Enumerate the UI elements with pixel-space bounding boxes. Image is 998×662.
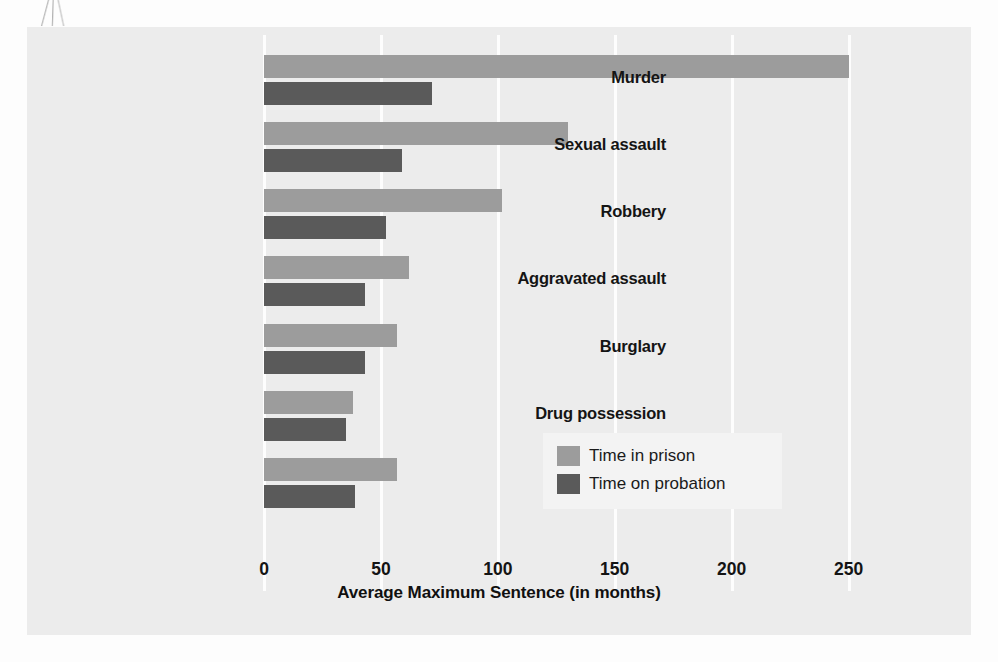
- x-tick-label-250: 250: [834, 559, 863, 580]
- bar-probation: [264, 485, 355, 508]
- category-label: Drug possession: [426, 404, 666, 423]
- x-tick-label-200: 200: [717, 559, 746, 580]
- x-axis-title: Average Maximum Sentence (in months): [27, 583, 971, 603]
- x-tick-label-100: 100: [483, 559, 512, 580]
- legend-label-probation: Time on probation: [589, 474, 725, 494]
- bar-prison: [264, 391, 353, 414]
- bar-prison: [264, 256, 409, 279]
- legend-item-probation: Time on probation: [557, 470, 782, 498]
- legend-swatch-prison-icon: [557, 446, 580, 466]
- bar-probation: [264, 418, 346, 441]
- category-label: Aggravated assault: [426, 269, 666, 288]
- bar-chart-figure: 050100150200250MurderSexual assaultRobbe…: [27, 27, 971, 635]
- bar-probation: [264, 351, 365, 374]
- legend-label-prison: Time in prison: [589, 446, 695, 466]
- x-tick-label-50: 50: [371, 559, 390, 580]
- bar-probation: [264, 149, 402, 172]
- bar-probation: [264, 216, 386, 239]
- legend-swatch-probation-icon: [557, 474, 580, 494]
- legend-item-prison: Time in prison: [557, 442, 782, 470]
- category-label: Murder: [426, 68, 666, 87]
- bar-probation: [264, 283, 365, 306]
- category-label: Robbery: [426, 202, 666, 221]
- x-tick-label-150: 150: [600, 559, 629, 580]
- category-label: Burglary: [426, 337, 666, 356]
- bar-prison: [264, 324, 397, 347]
- chart-legend: Time in prison Time on probation: [543, 433, 782, 509]
- bar-prison: [264, 458, 397, 481]
- x-tick-label-0: 0: [259, 559, 269, 580]
- bar-probation: [264, 82, 432, 105]
- category-label: Sexual assault: [426, 135, 666, 154]
